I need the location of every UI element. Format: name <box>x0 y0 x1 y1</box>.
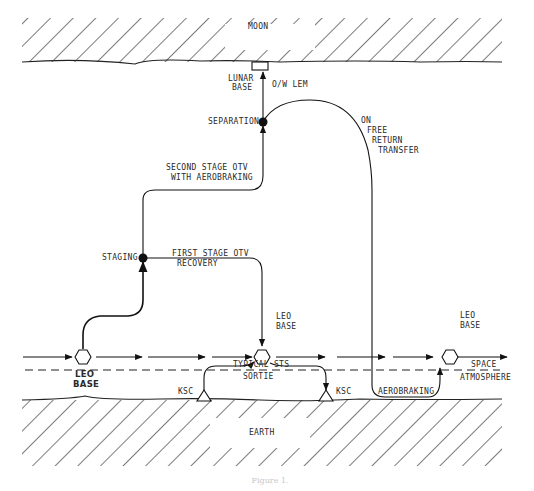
free-return-path <box>263 100 440 397</box>
free-return-label-line3: RETURN <box>372 136 403 146</box>
staging-label: STAGING <box>102 253 138 263</box>
lunar-base-label-line2: BASE <box>232 83 252 93</box>
second-stage-label-line1: SECOND STAGE OTV <box>166 163 248 173</box>
free-return-label-line1: ON <box>361 116 371 126</box>
leo-base-center-label-line2: BASE <box>276 322 296 332</box>
moon-label: MOON <box>248 22 268 32</box>
second-stage-path <box>143 126 263 258</box>
leo-base-right-label-line1: LEO <box>460 311 475 321</box>
leo-base-right-icon <box>442 350 458 364</box>
sts-sortie-label-line2: SORTIE <box>243 372 274 382</box>
first-stage-path <box>143 258 262 346</box>
earth-label: EARTH <box>249 428 275 438</box>
atmosphere-label: ATMOSPHERE <box>460 373 511 383</box>
ksc-left-label: KSC <box>178 387 193 397</box>
leo-base-left-icon <box>75 350 91 364</box>
separation-node <box>259 118 268 127</box>
ksc-right-label: KSC <box>336 387 351 397</box>
aerobraking-label: AEROBRAKING <box>378 387 434 397</box>
first-stage-label-line2: RECOVERY <box>177 259 218 269</box>
ascent-path <box>83 262 143 349</box>
staging-node <box>139 254 148 263</box>
first-stage-label-line1: FIRST STAGE OTV <box>172 249 249 259</box>
lunar-base-icon <box>252 62 268 70</box>
free-return-label-line2: FREE <box>367 126 387 136</box>
leo-base-left-label-line2: BASE <box>73 379 99 389</box>
figure-caption: Figure 1. <box>130 476 410 485</box>
second-stage-label-line2: WITH AEROBRAKING <box>171 173 253 183</box>
ksc-left-icon <box>197 390 211 401</box>
leo-base-left-label-line1: LEO <box>75 369 94 379</box>
space-label: SPACE <box>471 360 497 370</box>
leo-base-center-label-line1: LEO <box>276 312 291 322</box>
sts-sortie-label-line1: TYPICAL STS <box>233 360 289 370</box>
ksc-right-icon <box>319 390 333 401</box>
ow-lem-label: O/W LEM <box>272 80 308 90</box>
leo-base-right-label-line2: BASE <box>460 321 480 331</box>
free-return-label-line4: TRANSFER <box>378 146 419 156</box>
separation-label: SEPARATION <box>208 117 259 127</box>
lunar-mission-diagram <box>0 0 534 491</box>
